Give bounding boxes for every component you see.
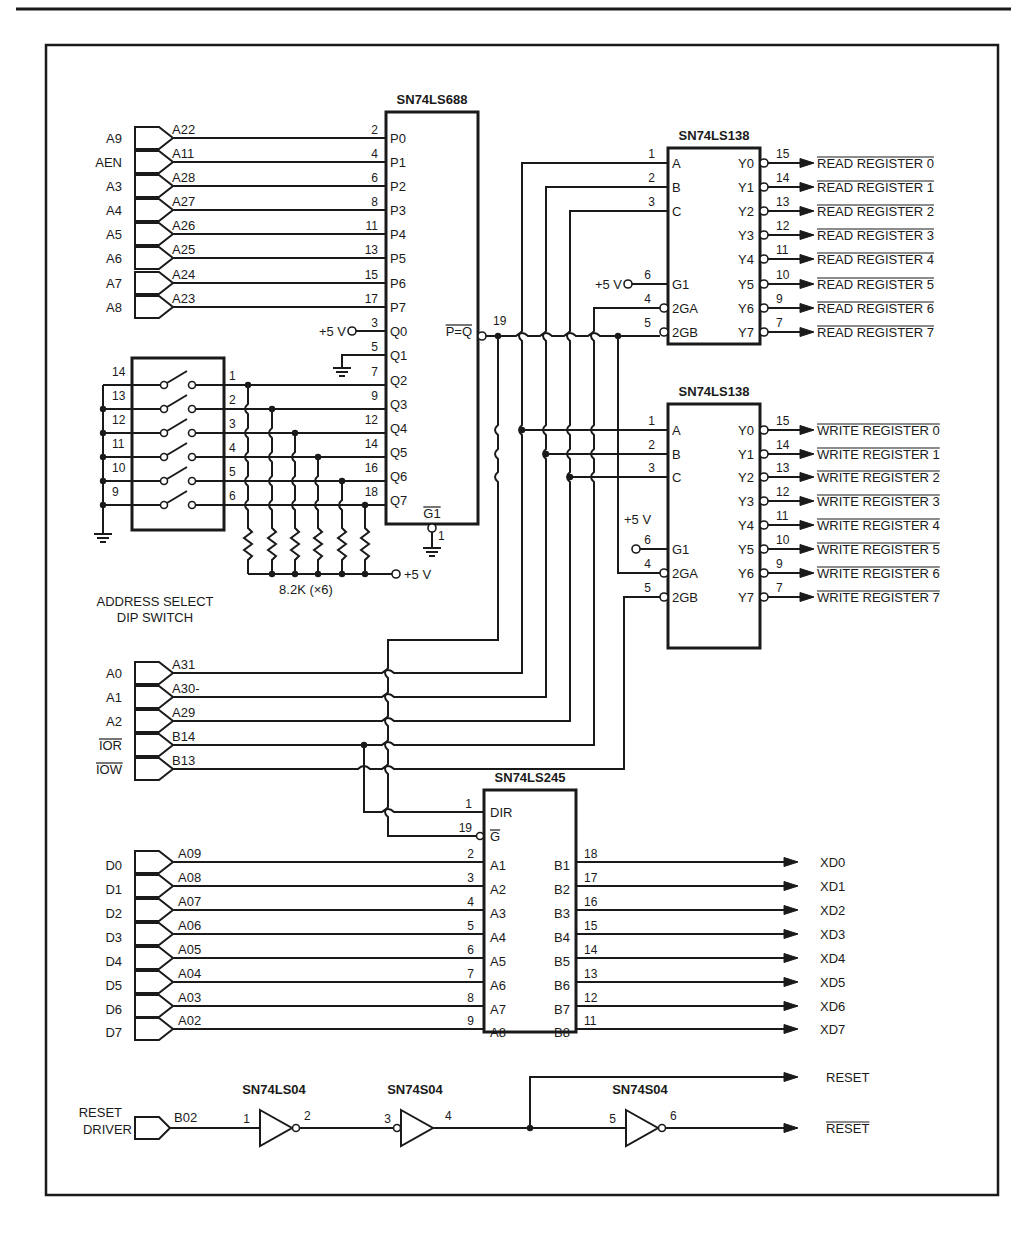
arrowhead-icon — [784, 858, 798, 867]
address-signal-label: A9 — [106, 131, 122, 146]
pin-number: 8 — [467, 991, 474, 1005]
pin-label: B2 — [554, 882, 570, 897]
pin-number: 5 — [644, 581, 651, 595]
pull-up-resistor-icon — [244, 385, 252, 574]
pin-number: 14 — [584, 943, 598, 957]
inversion-bubble — [760, 159, 768, 167]
pin-number: 15 — [776, 147, 790, 161]
address-signal-label: A3 — [106, 179, 122, 194]
write-register-signal: WRITE REGISTER 6 — [817, 566, 940, 581]
pin-number: 1 — [438, 529, 445, 543]
write-register-signal: WRITE REGISTER 2 — [817, 470, 940, 485]
iow-wire — [173, 597, 660, 769]
pin-label: Y3 — [738, 228, 754, 243]
read-register-signal: READ REGISTER 4 — [817, 252, 934, 267]
pin-label: 2GA — [672, 301, 698, 316]
bus-pin-label: A22 — [172, 122, 195, 137]
edge-connector — [135, 1117, 170, 1139]
bus-pin-label: A23 — [172, 291, 195, 306]
pin-label: C — [672, 470, 681, 485]
pin-label: B3 — [554, 906, 570, 921]
pin-number: 11 — [366, 219, 379, 233]
pin-label: Y4 — [738, 518, 754, 533]
edge-connector — [135, 199, 173, 221]
control-signal-label: A2 — [106, 714, 122, 729]
pin-number: 2 — [467, 847, 474, 861]
pin-number: 14 — [112, 365, 126, 379]
read-register-signal: READ REGISTER 3 — [817, 228, 934, 243]
comparator-title: SN74LS688 — [397, 92, 468, 107]
inversion-bubble — [760, 255, 768, 263]
pin-number: 12 — [584, 991, 598, 1005]
pin-label: A — [672, 423, 681, 438]
pin-label: A1 — [490, 858, 506, 873]
pin-number: 3 — [229, 417, 236, 431]
read-register-signal: READ REGISTER 0 — [817, 156, 934, 171]
pin-number: 1 — [648, 147, 655, 161]
pin-label: Y6 — [738, 301, 754, 316]
data-signal-label: D5 — [105, 978, 122, 993]
inverter-title: SN74S04 — [387, 1082, 443, 1097]
edge-connector — [135, 247, 173, 269]
data-signal-label: D4 — [105, 954, 122, 969]
pin-label: Y2 — [738, 204, 754, 219]
switch-contact — [189, 478, 196, 485]
comparator-output-label: P=Q — [446, 324, 472, 339]
xd-signal-label: XD3 — [820, 927, 845, 942]
pin-label: B6 — [554, 978, 570, 993]
pin-label: Y4 — [738, 252, 754, 267]
xd-signal-label: XD6 — [820, 999, 845, 1014]
pin-number: 6 — [644, 268, 651, 282]
vcc-terminal-icon — [348, 327, 356, 335]
pin-label: P2 — [390, 179, 406, 194]
pin-label: Y5 — [738, 277, 754, 292]
pin-number: 4 — [644, 292, 651, 306]
write-register-signal: WRITE REGISTER 1 — [817, 447, 940, 462]
pin-label: B — [672, 180, 681, 195]
inversion-bubble — [760, 304, 768, 312]
inverter-title: SN74S04 — [612, 1082, 668, 1097]
junction-dot — [100, 454, 106, 460]
reset-input-label: RESET — [79, 1105, 122, 1120]
comparator-chip — [386, 112, 478, 524]
arrowhead-icon — [800, 159, 814, 168]
edge-connector — [135, 710, 173, 732]
inversion-bubble — [428, 524, 436, 532]
pin-number: 6 — [670, 1109, 677, 1123]
pin-number: 7 — [467, 967, 474, 981]
inversion-bubble — [760, 280, 768, 288]
xd-signal-label: XD4 — [820, 951, 845, 966]
edge-connector — [135, 151, 173, 173]
dip-caption: DIP SWITCH — [117, 610, 193, 625]
switch-contact — [161, 502, 168, 509]
edge-connector — [135, 758, 173, 780]
bus-pin-label: A29 — [172, 705, 195, 720]
inversion-bubble — [760, 207, 768, 215]
pin-number: 1 — [465, 797, 472, 811]
pin-label: A4 — [490, 930, 506, 945]
edge-connector — [135, 296, 173, 318]
pin-label: A7 — [490, 1002, 506, 1017]
resistor-value-label: 8.2K (×6) — [279, 582, 333, 597]
pin-number: 5 — [644, 316, 651, 330]
pin-number: 19 — [459, 821, 473, 835]
pin-label: 2GB — [672, 590, 698, 605]
pin-label: Y0 — [738, 156, 754, 171]
switch-contact — [161, 454, 168, 461]
edge-connector — [135, 971, 173, 993]
vcc-terminal-icon — [632, 545, 640, 553]
arrowhead-icon — [800, 207, 814, 216]
bus-pin-label: A04 — [178, 966, 201, 981]
pin-label: B1 — [554, 858, 570, 873]
switch-contact — [161, 478, 168, 485]
pin-number: 13 — [365, 243, 379, 257]
data-signal-label: D6 — [105, 1002, 122, 1017]
reset-input-label: DRIVER — [83, 1122, 132, 1137]
control-signal-label: A0 — [106, 666, 122, 681]
read-register-signal: READ REGISTER 7 — [817, 325, 934, 340]
edge-connector — [135, 851, 173, 873]
pin-number: 17 — [584, 871, 598, 885]
data-signal-label: D1 — [105, 882, 122, 897]
pin-number: 11 — [776, 509, 789, 523]
pin-label: A5 — [490, 954, 506, 969]
